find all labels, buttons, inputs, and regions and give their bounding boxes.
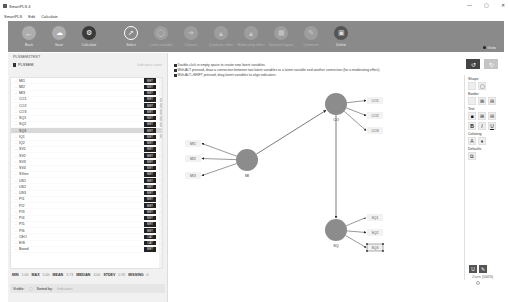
- stat-median-label: MEDIAN: [76, 273, 90, 277]
- redo-button[interactable]: ↻: [484, 59, 498, 69]
- generate-layout-button[interactable]: ▦Generate layout: [266, 21, 296, 52]
- loading-arrow[interactable]: [202, 159, 236, 160]
- resize-handle[interactable]: [366, 243, 368, 245]
- indicator-name: SV1: [19, 147, 26, 151]
- indicator-name: SQ2: [19, 122, 26, 126]
- border-grid-icon[interactable]: ⊞: [478, 97, 486, 105]
- bold-button[interactable]: B: [468, 122, 476, 130]
- indicator-box[interactable]: SQ3: [366, 243, 384, 252]
- window-controls: — ▢ ✕: [467, 2, 505, 8]
- construct-CO[interactable]: CO: [325, 93, 347, 122]
- loading-arrow[interactable]: [347, 231, 366, 233]
- list-item[interactable]: –BrandMET: [11, 247, 162, 253]
- loading-arrow[interactable]: [346, 108, 366, 116]
- path-model-diagram[interactable]: MI1MI2MI3CO1CO2CO3SQ1SQ2SQ3MICOSQ: [170, 53, 434, 302]
- construct-MI[interactable]: MI: [236, 149, 258, 178]
- calculate-label: Calculate: [82, 43, 97, 47]
- visible-toggle[interactable]: ▢: [29, 287, 33, 291]
- goto-button[interactable]: Goto: [483, 45, 496, 50]
- tree-line-icon: –: [15, 79, 17, 83]
- back-button[interactable]: ←Back: [14, 21, 44, 52]
- quadratic-effect-button[interactable]: ▲Quadratic effect: [206, 21, 236, 52]
- moderating-effect-button[interactable]: ▲Moderating effect: [236, 21, 266, 52]
- project-row[interactable]: PLSSEM Indicators count: [8, 61, 167, 69]
- underline-button[interactable]: U: [488, 122, 496, 130]
- loading-arrow[interactable]: [202, 144, 237, 157]
- color-fill-icon[interactable]: ♦: [478, 137, 486, 145]
- indicator-box[interactable]: MI2: [185, 155, 201, 162]
- format-panel: ↺ ↻ Shape ▢ Border ⊞ ⊟ Text ■ ⊞ ⊟ B I U …: [434, 53, 509, 302]
- border-width-icon[interactable]: ⊟: [488, 97, 496, 105]
- pencil-icon[interactable]: ✎: [479, 265, 487, 273]
- visible-label: Visible:: [13, 287, 25, 291]
- model-canvas[interactable]: Double-click in empty space to create ne…: [170, 53, 434, 302]
- menu-calculate[interactable]: Calculate: [41, 14, 58, 19]
- sorted-select[interactable]: Indicators: [57, 287, 73, 291]
- indicator-name: MI2: [19, 85, 25, 89]
- text-color-icon[interactable]: ■: [468, 112, 476, 120]
- zoom-indicator: Zoom (100%): [472, 275, 493, 279]
- latent-variable-button[interactable]: ◯Latent variable: [146, 21, 176, 52]
- magnet-icon[interactable]: U: [469, 265, 477, 273]
- loading-arrow[interactable]: [347, 101, 366, 103]
- indicator-box[interactable]: CO3: [367, 127, 383, 134]
- path-MI-CO[interactable]: [256, 110, 326, 154]
- scale-badge: MET: [144, 78, 156, 83]
- indicator-name: CO1: [19, 97, 26, 101]
- resize-handle[interactable]: [366, 250, 368, 252]
- maximize-button[interactable]: ▢: [484, 2, 489, 8]
- loading-arrow[interactable]: [202, 164, 237, 176]
- indicator-name: SVsin: [19, 172, 28, 176]
- stat-min-label: MIN: [12, 273, 19, 277]
- color-text-icon[interactable]: A: [468, 137, 476, 145]
- construct-SQ[interactable]: SQ: [325, 219, 347, 248]
- loading-arrow[interactable]: [346, 218, 366, 226]
- indicator-box[interactable]: SQ1: [367, 214, 383, 221]
- indicator-box[interactable]: CO2: [367, 112, 383, 119]
- text-grid-icon[interactable]: ⊞: [478, 112, 486, 120]
- back-label: Back: [25, 43, 33, 47]
- delete-button[interactable]: ▣Delete: [326, 21, 356, 52]
- scale-badge: MET: [144, 135, 156, 140]
- tree-line-icon: –: [15, 122, 17, 126]
- minimize-button[interactable]: —: [467, 2, 472, 8]
- close-button[interactable]: ✕: [501, 2, 505, 8]
- shape-square-icon[interactable]: ▢: [478, 82, 486, 90]
- save-button[interactable]: ☁Save: [44, 21, 74, 52]
- scale-badge: MET: [144, 141, 156, 146]
- defaults-copy-icon[interactable]: ⧉: [468, 152, 476, 160]
- canvas-tools: U ✎: [469, 265, 487, 273]
- border-color-button[interactable]: [468, 97, 476, 105]
- scale-badge: MET: [144, 122, 156, 127]
- comment-button[interactable]: ✎Comment: [296, 21, 326, 52]
- calculate-button[interactable]: ⚙Calculate: [74, 21, 104, 52]
- tree-line-icon: –: [15, 216, 17, 220]
- loading-arrow[interactable]: [346, 236, 366, 248]
- menu-smartpls[interactable]: SmartPLS: [4, 14, 22, 19]
- delete-icon: ▣: [334, 26, 348, 40]
- undo-button[interactable]: ↺: [466, 59, 480, 69]
- trash-icon[interactable]: [13, 63, 16, 67]
- defaults-section-title: Defaults: [468, 147, 504, 151]
- connect-button[interactable]: ➜Connect: [176, 21, 206, 52]
- menu-edit[interactable]: Edit: [28, 14, 35, 19]
- indicator-box[interactable]: MI1: [185, 140, 201, 147]
- zoom-slider-knob[interactable]: [476, 281, 480, 285]
- scale-badge: MET: [144, 97, 156, 102]
- indicator-box[interactable]: CO1: [367, 97, 383, 104]
- resize-handle[interactable]: [382, 243, 384, 245]
- select-button[interactable]: ➚Select: [116, 21, 146, 52]
- shape-fill-button[interactable]: [468, 82, 476, 90]
- border-section-title: Border: [468, 92, 504, 96]
- indicator-box[interactable]: SQ2: [367, 229, 383, 236]
- scale-badge: MET: [144, 247, 156, 252]
- italic-button[interactable]: I: [478, 122, 486, 130]
- scale-badge: MET: [144, 210, 156, 215]
- back-icon: ←: [22, 26, 36, 40]
- resize-handle[interactable]: [382, 250, 384, 252]
- indicator-label: SQ3: [371, 246, 378, 250]
- indicator-box[interactable]: MI3: [185, 172, 201, 179]
- indicator-name: PI3: [19, 210, 24, 214]
- scale-badge: MET: [144, 172, 156, 177]
- text-align-icon[interactable]: ⊟: [488, 112, 496, 120]
